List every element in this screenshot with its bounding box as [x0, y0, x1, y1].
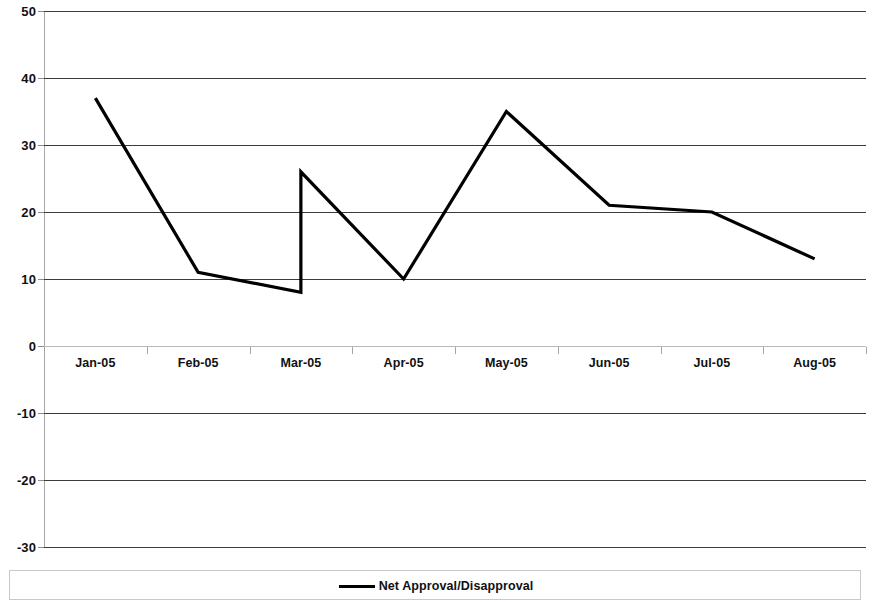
y-axis-tick-label: 20: [0, 205, 36, 220]
chart-root: 50403020100-10-20-30 Jan-05Feb-05Mar-05A…: [0, 0, 872, 602]
y-axis-tick-label: -10: [0, 406, 36, 421]
y-axis-tick-label: 30: [0, 138, 36, 153]
y-axis-tick-label: -30: [0, 540, 36, 555]
legend-line-swatch: [339, 585, 375, 588]
x-axis-tickmark: [866, 347, 867, 354]
series-net-approval-disapproval: [44, 11, 866, 547]
legend-entry: Net Approval/Disapproval: [10, 571, 862, 601]
gridline--30: [44, 547, 866, 548]
legend-entry-label: Net Approval/Disapproval: [379, 579, 534, 593]
y-axis-tick-label: 50: [0, 4, 36, 19]
y-axis-tick-label: 10: [0, 272, 36, 287]
y-axis-tick-label: 40: [0, 71, 36, 86]
legend: Net Approval/Disapproval: [9, 570, 861, 600]
y-axis-tickmark: [38, 547, 44, 548]
y-axis-tick-label: -20: [0, 473, 36, 488]
y-axis-tick-label: 0: [0, 339, 36, 354]
series-line: [95, 98, 814, 292]
